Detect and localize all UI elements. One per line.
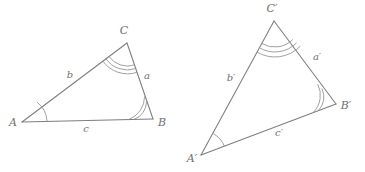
side-c-prime-line	[201, 104, 336, 155]
side-label-a: a	[144, 70, 150, 81]
side-label-c: c	[83, 123, 89, 134]
side-label-a-prime: a′	[313, 51, 322, 62]
triangle-abc-prime: A′ B′ C′ a′ b′ c′	[186, 2, 352, 165]
vertex-label-A: A	[8, 116, 17, 129]
vertex-label-C: C	[120, 24, 129, 37]
angle-arc-B	[129, 97, 147, 120]
angle-arc-B-prime	[313, 84, 324, 113]
side-b-line	[22, 43, 127, 122]
vertex-label-B: B	[157, 116, 166, 129]
side-a-line	[127, 43, 153, 119]
vertex-label-C-prime: C′	[267, 2, 278, 15]
geometry-figure: A B C a b c	[0, 0, 365, 172]
side-b-prime-line	[201, 21, 274, 155]
side-label-b-prime: b′	[227, 72, 236, 83]
angle-arc-A	[37, 102, 47, 121]
side-label-b: b	[67, 69, 73, 80]
geometry-canvas: A B C a b c	[0, 0, 365, 172]
triangle-abc: A B C a b c	[8, 24, 166, 134]
side-a-prime-line	[274, 21, 336, 104]
vertex-label-A-prime: A′	[186, 152, 198, 165]
angle-arc-A-prime	[213, 134, 224, 147]
vertex-label-B-prime: B′	[340, 99, 352, 112]
side-label-c-prime: c′	[275, 127, 284, 138]
